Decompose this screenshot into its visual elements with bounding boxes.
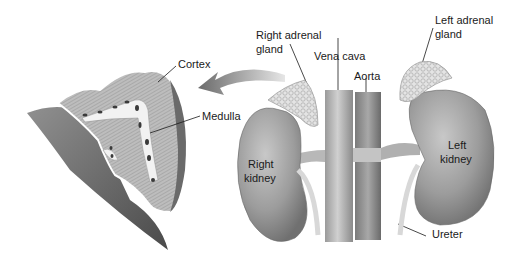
adrenal-cross-section (27, 71, 186, 250)
label-cortex: Cortex (178, 58, 210, 71)
callout-arrow (198, 70, 285, 95)
label-medulla: Medulla (202, 110, 241, 123)
label-vena-cava: Vena cava (314, 50, 365, 63)
label-left-adrenal-line2: gland (435, 28, 462, 41)
label-right-adrenal-line1: Right adrenal (256, 29, 321, 42)
label-left-kidney-line1: Left (448, 139, 466, 152)
diagram-canvas: Cortex Medulla Right adrenal gland Vena … (0, 0, 519, 258)
label-aorta: Aorta (354, 70, 380, 83)
label-right-kidney-line2: kidney (244, 172, 276, 185)
aorta (355, 92, 381, 240)
label-right-kidney-line1: Right (248, 158, 274, 171)
label-left-adrenal-line1: Left adrenal (435, 14, 493, 27)
label-right-adrenal-line2: gland (256, 43, 283, 56)
label-ureter: Ureter (432, 228, 463, 241)
label-left-kidney-line2: kidney (440, 153, 472, 166)
vena-cava (325, 90, 353, 242)
